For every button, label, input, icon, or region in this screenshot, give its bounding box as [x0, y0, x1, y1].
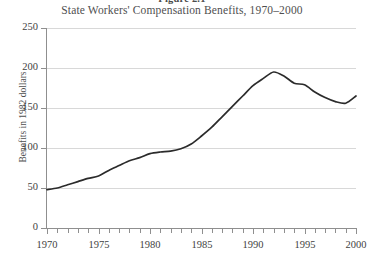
benefits-line-series [47, 72, 356, 190]
